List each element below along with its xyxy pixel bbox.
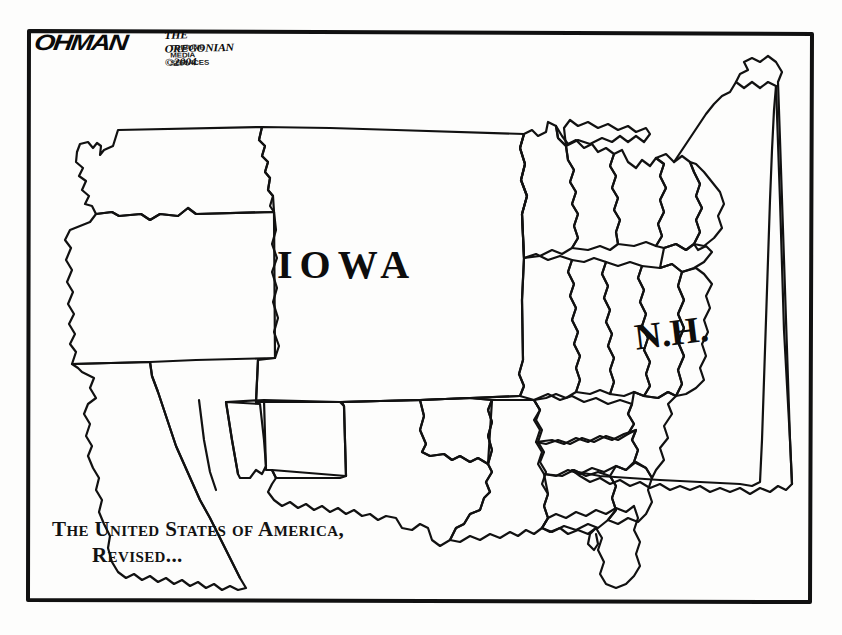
caption-line-2: Revised... <box>52 543 382 569</box>
cartoon-caption: The United States of America, Revised... <box>52 517 382 568</box>
map-label-iowa: IOWA <box>277 241 416 288</box>
caption-line-1: The United States of America, <box>52 517 382 543</box>
editorial-cartoon: OHMAN THE OREGONIAN ©2004 TRIBUNE MEDIA … <box>0 0 842 635</box>
artist-signature: OHMAN <box>33 30 128 55</box>
map-label-new-hampshire: N.H. <box>632 307 711 359</box>
syndicate-credit: TRIBUNE MEDIA SERVICES <box>170 43 209 67</box>
